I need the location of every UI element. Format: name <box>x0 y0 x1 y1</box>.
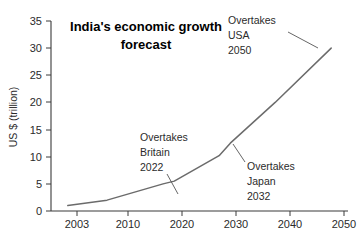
y-axis-title: US $ (trillion) <box>7 87 19 148</box>
x-axis-tick-labels: 2003 2010 2020 2030 2040 2050 <box>65 218 356 230</box>
x-tick-label-2050: 2050 <box>332 218 356 230</box>
y-tick-label-25: 25 <box>30 69 42 81</box>
annotation-usa-line-1: Overtakes <box>228 14 276 26</box>
chart-title-line-1: India's economic growth <box>70 19 222 34</box>
annotation-britain-line-3: 2022 <box>140 161 164 173</box>
y-tick-label-5: 5 <box>36 178 42 190</box>
y-tick-label-20: 20 <box>30 96 42 108</box>
annotation-britain-line-1: Overtakes <box>140 131 188 143</box>
annotation-japan-line-1: Overtakes <box>247 160 295 172</box>
annotation-usa-line-3: 2050 <box>228 44 252 56</box>
annotation-britain-leader-line <box>167 174 178 194</box>
x-tick-label-2030: 2030 <box>224 218 248 230</box>
annotation-britain: Overtakes Britain 2022 <box>140 131 188 194</box>
annotation-usa: Overtakes USA 2050 <box>228 14 318 56</box>
x-tick-label-2003: 2003 <box>65 218 89 230</box>
annotation-usa-line-2: USA <box>228 29 250 41</box>
annotation-japan: Overtakes Japan 2032 <box>233 144 295 202</box>
y-tick-label-0: 0 <box>36 205 42 217</box>
y-tick-label-35: 35 <box>30 15 42 27</box>
annotation-usa-leader-line <box>288 32 318 48</box>
annotation-britain-line-2: Britain <box>140 146 170 158</box>
y-axis-ticks <box>46 21 51 211</box>
annotation-japan-line-2: Japan <box>247 175 276 187</box>
annotation-japan-line-3: 2032 <box>247 190 271 202</box>
x-tick-label-2010: 2010 <box>116 218 140 230</box>
y-tick-label-10: 10 <box>30 151 42 163</box>
x-axis-ticks <box>77 211 344 216</box>
y-axis-tick-labels: 0 5 10 15 20 25 30 35 <box>30 15 42 217</box>
y-tick-label-15: 15 <box>30 124 42 136</box>
annotation-japan-leader-line <box>233 144 245 162</box>
economic-growth-line-chart: 0 5 10 15 20 25 30 35 US $ (trillion) 20… <box>0 0 360 243</box>
x-tick-label-2040: 2040 <box>278 218 302 230</box>
chart-title-line-2: forecast <box>121 37 172 52</box>
x-tick-label-2020: 2020 <box>170 218 194 230</box>
series-line-india-gdp <box>68 48 331 205</box>
y-tick-label-30: 30 <box>30 42 42 54</box>
chart-container: 0 5 10 15 20 25 30 35 US $ (trillion) 20… <box>0 0 360 243</box>
